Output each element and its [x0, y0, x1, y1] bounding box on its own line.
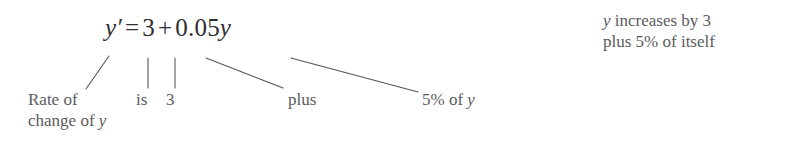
gloss-line-1: y increases by 3	[603, 10, 715, 31]
annotated-equation-diagram: y′=3+0.05y Rate of change of y is 3 plus…	[0, 0, 786, 144]
equation-coefficient: 0.05	[175, 14, 220, 41]
gloss-annotation: y increases by 3 plus 5% of itself	[603, 10, 715, 52]
leader-diagonal-pct	[291, 58, 418, 92]
callout-is: is	[136, 89, 147, 110]
callout-pct-text: 5% of	[422, 90, 467, 109]
leader-diagonal-plus	[206, 58, 283, 88]
callout-rate-line-2-text: change of	[28, 111, 99, 130]
callout-three: 3	[166, 89, 175, 110]
callout-rate-line-1: Rate of	[28, 89, 106, 110]
callout-rate-variable: y	[99, 111, 107, 130]
callout-plus: plus	[288, 89, 316, 110]
callout-rate-of-change: Rate of change of y	[28, 89, 106, 131]
gloss-line-2: plus 5% of itself	[603, 31, 715, 52]
equation-equals: =	[122, 14, 142, 41]
leader-slash-rate	[86, 56, 109, 89]
callout-five-percent-of-y: 5% of y	[422, 89, 475, 110]
equation-rhs-var: y	[220, 14, 231, 41]
gloss-line-1-variable: y	[603, 11, 611, 30]
equation-lhs: y′	[105, 14, 122, 41]
callout-rate-line-2: change of y	[28, 110, 106, 131]
equation-plus: +	[155, 14, 175, 41]
equation: y′=3+0.05y	[105, 13, 231, 43]
equation-constant: 3	[142, 14, 155, 41]
gloss-line-1-text: increases by 3	[611, 11, 712, 30]
callout-pct-variable: y	[467, 90, 475, 109]
